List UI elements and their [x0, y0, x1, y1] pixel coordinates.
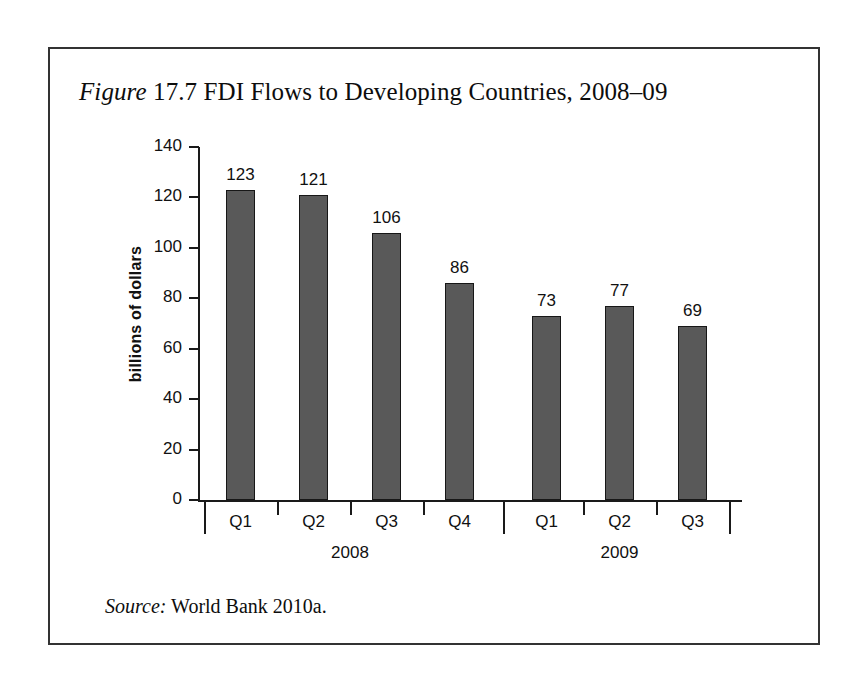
x-axis-line [198, 500, 742, 502]
x-axis-group-label: 2009 [575, 543, 665, 563]
x-axis-group-label: 2008 [305, 543, 395, 563]
y-axis-tick-label: 60 [128, 338, 182, 358]
y-axis-tick [189, 449, 199, 451]
x-axis-tick [423, 501, 425, 515]
x-axis-tick [277, 501, 279, 515]
bar-value-label: 86 [430, 258, 490, 278]
bar-value-label: 121 [284, 170, 344, 190]
figure-frame: Figure 17.7 FDI Flows to Developing Coun… [48, 47, 820, 645]
x-axis-tick [656, 501, 658, 515]
y-axis-tick [189, 297, 199, 299]
source-note: Source: World Bank 2010a. [105, 595, 327, 618]
y-axis-tick-label: 40 [128, 388, 182, 408]
y-axis-tick [189, 499, 199, 501]
x-axis-category-label: Q3 [663, 512, 723, 532]
x-axis-category-label: Q2 [284, 512, 344, 532]
x-axis-tick [583, 501, 585, 515]
x-axis-category-label: Q3 [357, 512, 417, 532]
y-axis-tick-label: 120 [128, 186, 182, 206]
y-axis-tick [189, 196, 199, 198]
x-axis-group-boundary-tick [503, 501, 505, 534]
bar-value-label: 123 [211, 165, 271, 185]
bar [445, 283, 474, 500]
chart-plot-area: billions of dollars 140120100806040200 1… [50, 49, 822, 647]
bar [678, 326, 707, 500]
bar [532, 316, 561, 500]
y-axis-tick-label: 20 [128, 439, 182, 459]
x-axis-category-label: Q1 [211, 512, 271, 532]
bar [299, 195, 328, 500]
bar-value-label: 106 [357, 208, 417, 228]
x-axis-category-label: Q2 [590, 512, 650, 532]
x-axis-category-label: Q1 [517, 512, 577, 532]
bar [605, 306, 634, 500]
bar [226, 190, 255, 500]
y-axis-tick-label: 100 [128, 237, 182, 257]
bar-value-label: 73 [517, 291, 577, 311]
y-axis-tick [189, 398, 199, 400]
source-note-rest: World Bank 2010a. [166, 595, 326, 617]
y-axis-tick [189, 247, 199, 249]
bar-value-label: 77 [590, 281, 650, 301]
x-axis-tick [350, 501, 352, 515]
y-axis-tick [189, 348, 199, 350]
x-axis-group-boundary-tick [204, 501, 206, 534]
bar-value-label: 69 [663, 301, 723, 321]
y-axis-tick-label: 140 [128, 136, 182, 156]
bar [372, 233, 401, 500]
y-axis-tick-label: 0 [128, 489, 182, 509]
x-axis-category-label: Q4 [430, 512, 490, 532]
source-note-prefix: Source: [105, 595, 166, 617]
y-axis-tick-label: 80 [128, 287, 182, 307]
x-axis-group-boundary-tick [729, 501, 731, 534]
y-axis-tick [189, 146, 199, 148]
